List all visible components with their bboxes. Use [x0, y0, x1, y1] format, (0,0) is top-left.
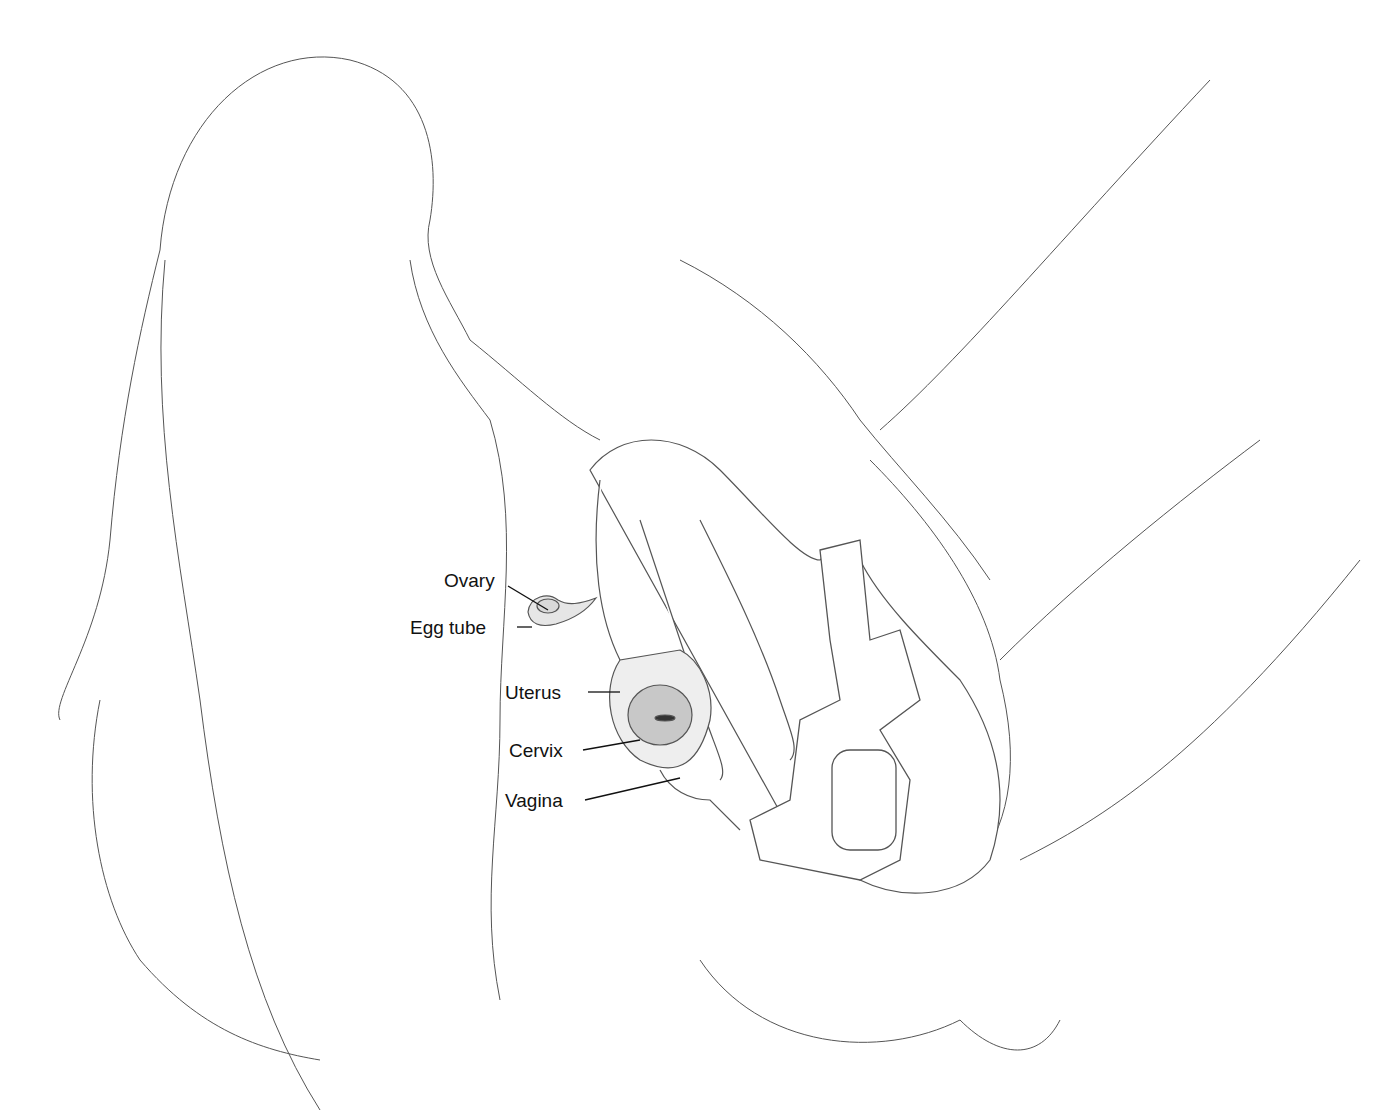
- label-cervix: Cervix: [509, 741, 563, 760]
- label-vagina: Vagina: [505, 791, 563, 810]
- anatomical-illustration: [0, 0, 1398, 1117]
- label-uterus: Uterus: [505, 683, 561, 702]
- cervix-opening: [655, 715, 675, 721]
- label-ovary: Ovary: [444, 571, 495, 590]
- label-egg-tube: Egg tube: [410, 618, 486, 637]
- vagina-shape: [660, 770, 740, 830]
- egg-tube-shape: [528, 596, 596, 626]
